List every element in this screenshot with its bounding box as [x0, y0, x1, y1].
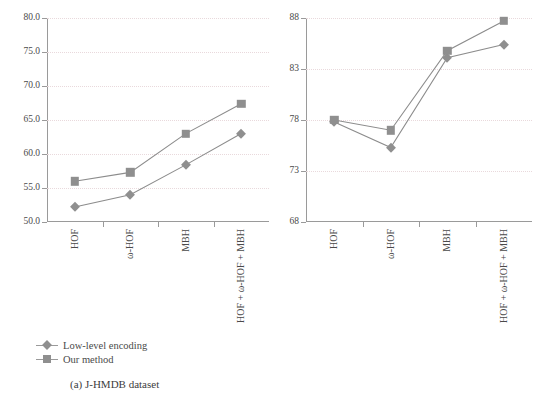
- x-axis-tick-label: HOF + ω-HOF + MBH: [499, 229, 509, 323]
- x-axis-tick-label: HOF: [329, 229, 339, 249]
- square-data-point: [500, 17, 508, 25]
- y-axis-tick-label: 80.0: [23, 13, 40, 23]
- y-axis-tick-label: 75.0: [23, 47, 40, 57]
- square-data-point: [71, 177, 79, 185]
- x-axis-tick: [419, 222, 420, 227]
- y-axis-tick-label: 68: [290, 217, 300, 227]
- diamond-marker-icon: [36, 338, 58, 352]
- legend-item-our-method: Our method: [36, 352, 147, 366]
- y-axis-tick-label: 60.0: [23, 149, 40, 159]
- series-line: [334, 21, 504, 130]
- y-axis-tick-label: 83: [290, 64, 300, 74]
- square-data-point: [387, 126, 395, 134]
- y-axis-tick-label: 50.0: [23, 217, 40, 227]
- figure-container: 50.055.060.065.070.075.080.0HOFω-HOFMBHH…: [0, 0, 552, 405]
- plot-area-b: 6873788388HOFω-HOFMBHHOF + ω-HOF + MBH: [306, 18, 532, 222]
- chart-panel-a: 50.055.060.065.070.075.080.0HOFω-HOFMBHH…: [0, 0, 276, 405]
- y-axis-tick-label: 88: [290, 13, 300, 23]
- series-lines: [306, 18, 532, 222]
- legend-label: Our method: [63, 354, 113, 365]
- x-axis-tick-label: HOF + ω-HOF + MBH: [236, 229, 246, 323]
- x-axis-tick: [103, 222, 104, 227]
- square-data-point: [126, 168, 134, 176]
- x-axis-tick: [158, 222, 159, 227]
- series-line: [75, 104, 242, 182]
- y-axis-tick-label: 70.0: [23, 81, 40, 91]
- plot-area-a: 50.055.060.065.070.075.080.0HOFω-HOFMBHH…: [47, 18, 269, 222]
- x-axis-tick-label: HOF: [70, 229, 80, 249]
- square-data-point: [237, 99, 245, 107]
- x-axis-tick-label: ω-HOF: [125, 229, 135, 259]
- legend-item-low-level-encoding: Low-level encoding: [36, 338, 147, 352]
- panel-caption-a: (a) J-HMDB dataset: [70, 378, 159, 390]
- legend-label: Low-level encoding: [63, 340, 147, 351]
- y-axis-tick-label: 55.0: [23, 183, 40, 193]
- square-data-point: [182, 129, 190, 137]
- y-axis-tick-label: 78: [290, 115, 300, 125]
- square-marker-icon: [36, 352, 58, 366]
- series-line: [75, 134, 242, 207]
- x-axis-tick-label: MBH: [181, 229, 191, 252]
- x-axis-tick-label: MBH: [442, 229, 452, 252]
- legend-a: Low-level encoding Our method: [36, 338, 147, 366]
- series-line: [334, 45, 504, 148]
- y-axis-tick: [42, 222, 47, 223]
- series-lines: [47, 18, 269, 222]
- square-data-point: [330, 116, 338, 124]
- y-axis-tick-label: 65.0: [23, 115, 40, 125]
- x-axis-tick: [363, 222, 364, 227]
- x-axis-tick-label: ω-HOF: [386, 229, 396, 259]
- y-axis-tick-label: 73: [290, 166, 300, 176]
- chart-panel-b: 6873788388HOFω-HOFMBHHOF + ω-HOF + MBH L…: [276, 0, 552, 405]
- y-axis-tick: [301, 222, 306, 223]
- square-data-point: [443, 46, 451, 54]
- x-axis-tick: [476, 222, 477, 227]
- x-axis-tick: [214, 222, 215, 227]
